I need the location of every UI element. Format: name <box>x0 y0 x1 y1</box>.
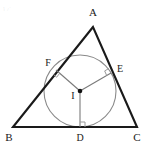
vertex-label-c: C <box>133 131 140 143</box>
point-label-e: E <box>117 63 123 74</box>
geometry-canvas: A B C D E F I <box>0 0 155 154</box>
point-label-f: F <box>45 57 51 68</box>
vertex-label-b: B <box>5 131 12 143</box>
radius-segment-if <box>56 70 80 91</box>
point-label-d: D <box>76 132 83 143</box>
triangle-abc <box>13 27 137 127</box>
incenter-point <box>78 89 83 94</box>
geometry-figure: ☞ A B C D E F I <box>0 0 155 154</box>
point-label-i: I <box>71 90 74 101</box>
vertex-label-a: A <box>89 6 97 18</box>
radius-segment-ie <box>80 73 111 91</box>
